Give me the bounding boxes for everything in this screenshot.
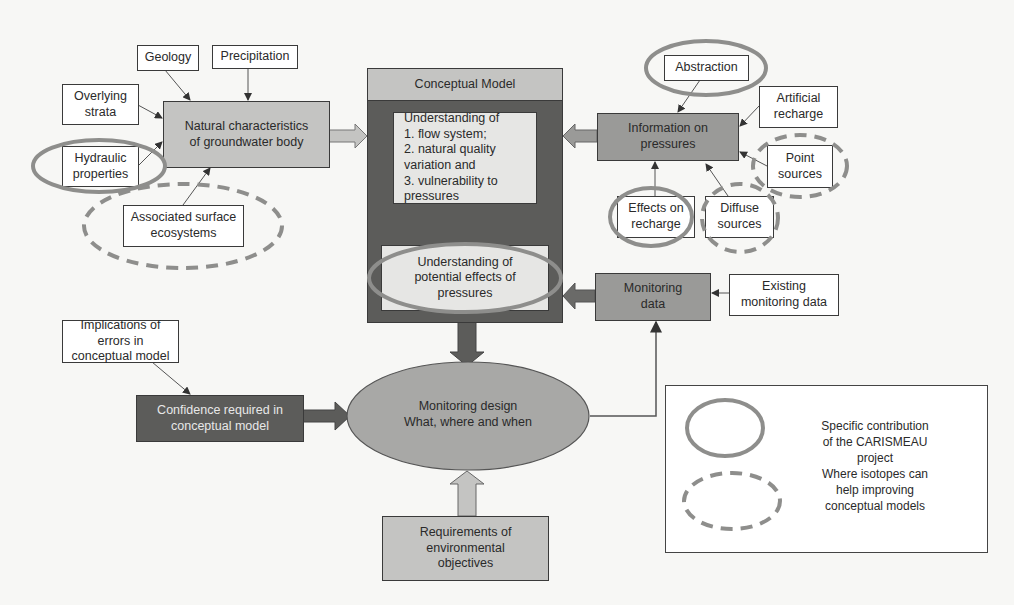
artificial-recharge-label: Artificial recharge xyxy=(766,91,831,122)
understanding-item: 3. vulnerability to pressures xyxy=(404,174,536,205)
geology-box: Geology xyxy=(137,45,199,71)
legend-dashed-label: Where isotopes can help improving concep… xyxy=(815,466,935,514)
abstraction-box: Abstraction xyxy=(664,55,749,81)
block-arrow-requirements xyxy=(450,471,484,516)
effects-on-recharge-label: Effects on recharge xyxy=(624,201,688,232)
precipitation-label: Precipitation xyxy=(221,49,290,65)
overlying-strata-box: Overlying strata xyxy=(62,84,139,125)
arrow-artificial xyxy=(740,106,759,126)
arrow-hydraulic xyxy=(138,142,162,166)
implications-box: Implications of errors in conceptual mod… xyxy=(62,320,179,363)
legend-solid-label: Specific contribution of the CARISMEAU p… xyxy=(815,418,935,466)
line-design-to-monitoring xyxy=(590,322,656,416)
ecosystems-box: Associated surface ecosystems xyxy=(123,205,244,247)
natural-characteristics-label: Natural characteristics of groundwater b… xyxy=(178,119,315,150)
information-on-pressures-label: Information on pressures xyxy=(612,121,724,152)
monitoring-data-box: Monitoring data xyxy=(595,273,711,321)
arrow-geology xyxy=(165,70,190,100)
arrow-abstraction xyxy=(678,80,700,112)
requirements-box: Requirements of environmental objectives xyxy=(382,516,549,581)
confidence-required-label: Confidence required in conceptual model xyxy=(153,403,287,434)
conceptual-model-header: Conceptual Model xyxy=(367,68,563,101)
monitoring-design-text: Monitoring design What, where and when xyxy=(368,398,568,431)
requirements-label: Requirements of environmental objectives xyxy=(413,525,518,572)
potential-effects-label: Understanding of potential effects of pr… xyxy=(404,255,526,302)
block-arrow-down xyxy=(450,322,484,366)
geology-label: Geology xyxy=(145,50,192,66)
effects-on-recharge-box: Effects on recharge xyxy=(617,196,695,238)
arrow-ecosystems xyxy=(183,168,210,205)
information-on-pressures-box: Information on pressures xyxy=(597,113,739,161)
precipitation-box: Precipitation xyxy=(212,45,298,69)
existing-monitoring-label: Existing monitoring data xyxy=(730,279,838,310)
arrow-overlying xyxy=(138,105,162,118)
monitoring-design-line2: What, where and when xyxy=(368,414,568,430)
overlying-strata-label: Overlying strata xyxy=(69,89,132,120)
arrow-implications xyxy=(152,362,190,394)
ecosystems-label: Associated surface ecosystems xyxy=(128,210,239,241)
monitoring-design-line1: Monitoring design xyxy=(368,398,568,414)
abstraction-label: Abstraction xyxy=(675,60,738,76)
confidence-required-box: Confidence required in conceptual model xyxy=(136,395,304,442)
point-sources-label: Point sources xyxy=(776,151,824,182)
legend-text: Specific contribution of the CARISMEAU p… xyxy=(815,418,935,514)
hydraulic-properties-label: Hydraulic properties xyxy=(67,151,134,182)
artificial-recharge-box: Artificial recharge xyxy=(759,86,838,128)
conceptual-model-title: Conceptual Model xyxy=(415,77,516,93)
diffuse-sources-label: Diffuse sources xyxy=(714,201,765,232)
block-arrow-pressures xyxy=(563,124,597,148)
diffuse-sources-box: Diffuse sources xyxy=(705,196,774,238)
implications-label: Implications of errors in conceptual mod… xyxy=(67,318,174,365)
block-arrow-natural xyxy=(329,124,367,148)
point-sources-box: Point sources xyxy=(767,145,833,188)
monitoring-data-label: Monitoring data xyxy=(610,281,696,312)
block-arrow-monitoring xyxy=(563,283,595,309)
potential-effects-box: Understanding of potential effects of pr… xyxy=(381,245,549,311)
understanding-item: 2. natural quality variation and xyxy=(404,142,536,173)
hydraulic-properties-box: Hydraulic properties xyxy=(62,146,139,187)
existing-monitoring-box: Existing monitoring data xyxy=(729,274,839,316)
arrow-diffuse xyxy=(706,164,728,196)
arrow-point xyxy=(740,152,767,166)
natural-characteristics-box: Natural characteristics of groundwater b… xyxy=(163,101,330,168)
block-arrow-confidence xyxy=(303,402,350,430)
understanding-heading: Understanding of xyxy=(404,111,499,127)
understanding-item: 1. flow system; xyxy=(404,127,487,143)
understanding-box: Understanding of 1. flow system; 2. natu… xyxy=(393,112,537,204)
